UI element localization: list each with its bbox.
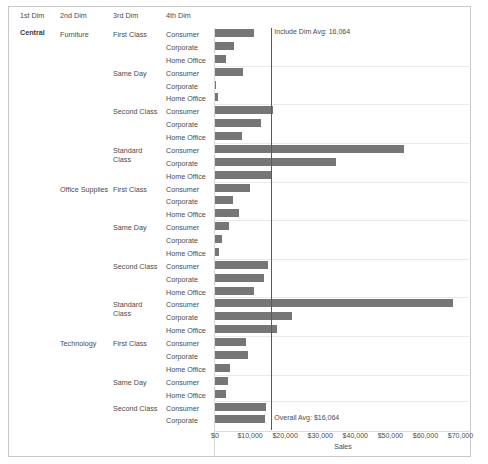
dim4-label: Consumer (166, 223, 199, 232)
group-divider (215, 375, 471, 376)
bar[interactable] (215, 55, 226, 63)
x-axis: $0$10,000$20,000$30,000$40,000$50,000$60… (215, 431, 471, 457)
dim4-label: Consumer (166, 69, 199, 78)
dim3-label: Same Day (113, 378, 147, 387)
dim2-label: Furniture (60, 30, 89, 39)
bar[interactable] (215, 196, 233, 204)
bar[interactable] (215, 274, 264, 282)
bar[interactable] (215, 415, 265, 423)
bar[interactable] (215, 338, 246, 346)
dim3-label: Second Class (113, 262, 157, 271)
group-divider (215, 66, 471, 67)
group-divider (215, 143, 471, 144)
group-divider (215, 104, 471, 105)
dim3-label: First Class (113, 30, 147, 39)
axis-tick-label: $20,000 (272, 432, 297, 439)
dim4-label: Home Office (166, 288, 206, 297)
header-2nd-dim: 2nd Dim (60, 11, 87, 20)
dim4-label: Home Office (166, 172, 206, 181)
dim4-label: Consumer (166, 185, 199, 194)
dim3-label: Second Class (113, 107, 157, 116)
dim4-label: Corporate (166, 236, 198, 245)
dim4-label: Consumer (166, 262, 199, 271)
dim4-label: Consumer (166, 146, 199, 155)
dim4-label: Home Office (166, 56, 206, 65)
group-divider (215, 336, 471, 337)
bar[interactable] (215, 209, 239, 217)
bar[interactable] (215, 312, 292, 320)
axis-tick-label: $70,000 (448, 432, 473, 439)
bar[interactable] (215, 287, 254, 295)
bar[interactable] (215, 351, 248, 359)
bar[interactable] (215, 93, 218, 101)
dim4-label: Corporate (166, 43, 198, 52)
bar[interactable] (215, 132, 242, 140)
bar[interactable] (215, 248, 219, 256)
bar[interactable] (215, 106, 273, 114)
axis-tick-label: $10,000 (237, 432, 262, 439)
bar[interactable] (215, 184, 250, 192)
dim4-label: Consumer (166, 107, 199, 116)
bar[interactable] (215, 68, 243, 76)
dim4-label: Corporate (166, 352, 198, 361)
dim4-label: Consumer (166, 378, 199, 387)
group-divider (215, 182, 471, 183)
dim4-label: Corporate (166, 313, 198, 322)
dim2-label: Office Supplies (60, 185, 108, 194)
group-divider (215, 401, 471, 402)
dim3-label: Second Class (113, 404, 157, 413)
dim3-label: Same Day (113, 69, 147, 78)
group-divider (215, 220, 471, 221)
reference-label-include-dim-avg: Include Dim Avg: 16,064 (274, 28, 350, 35)
axis-tick-label: $50,000 (378, 432, 403, 439)
bar[interactable] (215, 158, 336, 166)
dim3-label: Standard Class (113, 146, 153, 164)
header-1st-dim: 1st Dim (20, 11, 44, 20)
dim4-label: Consumer (166, 300, 199, 309)
axis-tick-label: $0 (211, 432, 219, 439)
bar[interactable] (215, 403, 266, 411)
axis-title-sales: Sales (215, 443, 471, 450)
header-3rd-dim: 3rd Dim (113, 11, 138, 20)
dimension-header-row: 1st Dim 2nd Dim 3rd Dim 4th Dim (9, 7, 470, 28)
dim4-label: Consumer (166, 339, 199, 348)
dim4-label: Corporate (166, 120, 198, 129)
bar[interactable] (215, 390, 226, 398)
dim4-label: Corporate (166, 416, 198, 425)
dim4-label: Corporate (166, 197, 198, 206)
bar[interactable] (215, 29, 254, 37)
bar[interactable] (215, 171, 272, 179)
reference-label-overall-avg: Overall Avg: $16,064 (274, 414, 339, 421)
dim4-label: Home Office (166, 94, 206, 103)
bar[interactable] (215, 325, 277, 333)
axis-tick-label: $30,000 (308, 432, 333, 439)
dim4-label: Home Office (166, 133, 206, 142)
viz-container: 1st Dim 2nd Dim 3rd Dim 4th Dim Central … (8, 6, 471, 457)
bar[interactable] (215, 145, 404, 153)
dim3-label: First Class (113, 339, 147, 348)
dim4-label: Corporate (166, 275, 198, 284)
reference-line-overall-avg[interactable] (271, 28, 272, 430)
dim4-label: Home Office (166, 391, 206, 400)
bar[interactable] (215, 261, 268, 269)
bar[interactable] (215, 222, 229, 230)
bar[interactable] (215, 42, 234, 50)
dim4-label: Consumer (166, 404, 199, 413)
bar[interactable] (215, 299, 453, 307)
bar[interactable] (215, 119, 261, 127)
dim3-label: Standard Class (113, 300, 153, 318)
dim4-label: Consumer (166, 30, 199, 39)
dim2-label: Technology (60, 339, 96, 348)
group-divider (215, 297, 471, 298)
bar[interactable] (215, 377, 228, 385)
bar-plot-area: Include Dim Avg: 16,064Overall Avg: $16,… (215, 28, 471, 430)
dim4-label: Home Office (166, 365, 206, 374)
bar[interactable] (215, 364, 230, 372)
dim4-label: Corporate (166, 159, 198, 168)
bar[interactable] (215, 235, 222, 243)
dim4-label: Corporate (166, 82, 198, 91)
dim3-label: First Class (113, 185, 147, 194)
header-4th-dim: 4th Dim (166, 11, 191, 20)
bar[interactable] (215, 81, 216, 89)
dim3-label: Same Day (113, 223, 147, 232)
